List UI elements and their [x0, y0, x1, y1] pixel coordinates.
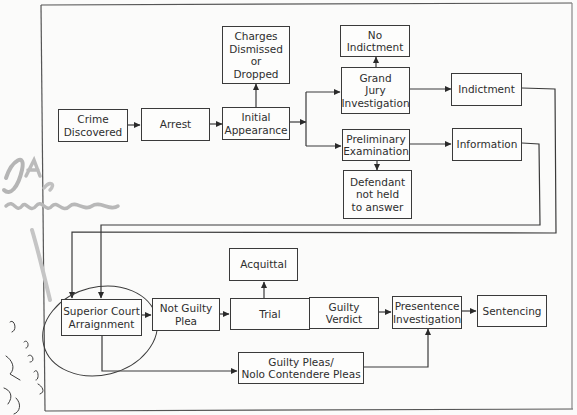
- node-superior-court-arraignment: Superior Court Arraignment: [61, 299, 142, 336]
- frame-top: [41, 3, 572, 5]
- node-initial-appearance: Initial Appearance: [222, 107, 290, 140]
- node-preliminary-examination: Preliminary Examination: [342, 129, 410, 161]
- node-crime-discovered: Crime Discovered: [58, 109, 128, 142]
- node-not-guilty-plea: Not Guilty Plea: [152, 298, 220, 331]
- node-charges-dismissed: Charges Dismissed or Dropped: [222, 26, 290, 84]
- node-sentencing: Sentencing: [477, 295, 547, 327]
- node-indictment: Indictment: [451, 73, 522, 106]
- frame-bottom: [45, 409, 573, 411]
- node-grand-jury: Grand Jury Investigation: [341, 67, 410, 114]
- node-acquittal: Acquittal: [229, 248, 298, 281]
- node-presentence-investigation: Presentence Investigation: [392, 296, 462, 329]
- node-guilty-verdict: Guilty Verdict: [309, 297, 379, 329]
- node-no-indictment: No Indictment: [340, 25, 410, 57]
- node-arrest: Arrest: [141, 108, 210, 141]
- handwritten-annotation: [4, 160, 167, 414]
- node-defendant-not-held: Defendant not held to answer: [343, 170, 412, 219]
- node-trial: Trial: [230, 298, 310, 330]
- node-guilty-pleas: Guilty Pleas/ Nolo Contendere Pleas: [238, 352, 364, 384]
- node-information: Information: [452, 128, 522, 161]
